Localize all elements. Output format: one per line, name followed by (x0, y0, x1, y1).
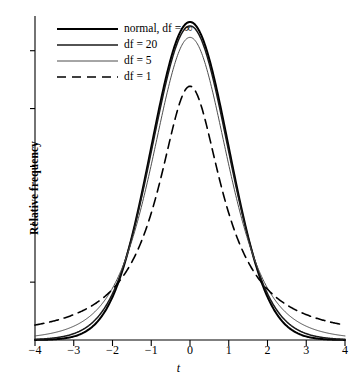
legend-label-1: df = 20 (124, 38, 157, 50)
x-tick-label: 0 (178, 343, 202, 358)
curve-series-2 (35, 37, 345, 336)
curve-series-0 (35, 22, 345, 340)
x-tick-label: 1 (217, 343, 241, 358)
legend-label-2: df = 5 (124, 54, 152, 66)
legend-label-3: df = 1 (124, 70, 152, 82)
x-tick-label: −3 (62, 343, 86, 358)
legend-label-0: normal, df = ∞ (124, 22, 192, 34)
y-axis-label: Relative frequency (28, 108, 40, 268)
curve-series-3 (35, 86, 345, 325)
curve-series-1 (35, 26, 345, 339)
x-tick-label: 2 (256, 343, 280, 358)
x-tick-label: 3 (294, 343, 318, 358)
x-axis-label: t (0, 361, 357, 376)
t-distribution-chart: Relative frequency t −4−3−2−101234 norma… (0, 0, 357, 386)
x-tick-label: −1 (139, 343, 163, 358)
x-tick-label: −4 (23, 343, 47, 358)
x-tick-label: 4 (333, 343, 357, 358)
plot-area (0, 0, 357, 386)
x-tick-label: −2 (101, 343, 125, 358)
